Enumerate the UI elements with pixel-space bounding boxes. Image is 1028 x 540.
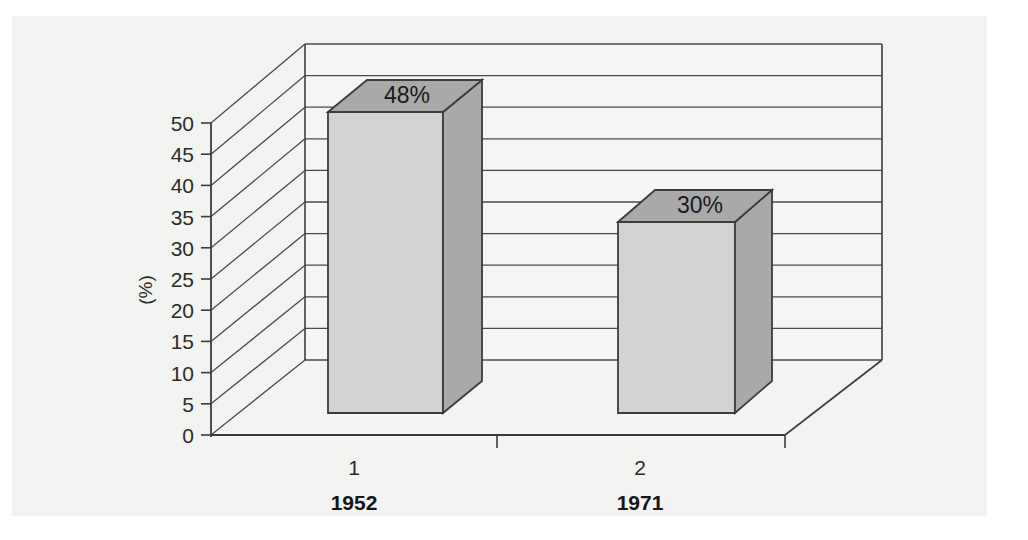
y-tick-label-5: 5 <box>182 393 194 416</box>
bar-2-value-label: 30% <box>677 192 723 218</box>
y-tick-label-15: 15 <box>171 330 194 353</box>
depth-line-5 <box>211 328 305 403</box>
y-tick-label-25: 25 <box>171 268 194 291</box>
bar-1-front-face[interactable] <box>328 112 443 413</box>
3d-bar-chart: 0 5 10 15 20 25 30 35 40 45 50 (%) 48% <box>0 0 1028 540</box>
floor-right-edge <box>785 360 882 435</box>
y-tick-label-20: 20 <box>171 299 194 322</box>
x-series-label-2: 1971 <box>617 491 664 514</box>
depth-line-30 <box>211 170 305 247</box>
y-tick-labels: 0 5 10 15 20 25 30 35 40 45 50 <box>171 112 194 447</box>
bar-2[interactable]: 30% <box>618 190 772 413</box>
depth-line-10 <box>211 297 305 373</box>
y-axis-ticks <box>201 123 211 435</box>
x-series-labels: 1952 1971 <box>331 491 664 514</box>
y-tick-label-50: 50 <box>171 112 194 135</box>
chart-floor <box>211 360 882 435</box>
y-tick-label-40: 40 <box>171 174 194 197</box>
x-tick-labels: 1 2 <box>348 456 646 479</box>
y-tick-label-0: 0 <box>182 424 194 447</box>
y-axis: 0 5 10 15 20 25 30 35 40 45 50 (%) <box>135 112 211 447</box>
x-tick-label-2: 2 <box>634 456 646 479</box>
x-axis: 1 2 1952 1971 <box>331 435 785 514</box>
x-tick-label-1: 1 <box>348 456 360 479</box>
y-tick-label-30: 30 <box>171 237 194 260</box>
x-axis-ticks <box>497 435 785 448</box>
y-tick-label-10: 10 <box>171 362 194 385</box>
depth-line-40 <box>211 107 305 185</box>
y-axis-title: (%) <box>135 275 156 305</box>
depth-line-25 <box>211 202 305 279</box>
left-depth-wall <box>211 44 305 435</box>
bar-1-side-face[interactable] <box>443 80 482 413</box>
bar-2-front-face[interactable] <box>618 222 735 413</box>
depth-line-0 <box>211 360 305 435</box>
depth-line-45 <box>211 76 305 155</box>
y-tick-label-35: 35 <box>171 206 194 229</box>
depth-line-50 <box>211 44 305 123</box>
y-tick-label-45: 45 <box>171 143 194 166</box>
bar-1-value-label: 48% <box>384 82 430 108</box>
bar-1[interactable]: 48% <box>328 80 482 413</box>
x-series-label-1: 1952 <box>331 491 378 514</box>
depth-line-20 <box>211 234 305 311</box>
depth-line-15 <box>211 265 305 341</box>
bar-2-side-face[interactable] <box>735 190 772 413</box>
chart-figure: 0 5 10 15 20 25 30 35 40 45 50 (%) 48% <box>0 0 1028 540</box>
depth-line-35 <box>211 139 305 217</box>
